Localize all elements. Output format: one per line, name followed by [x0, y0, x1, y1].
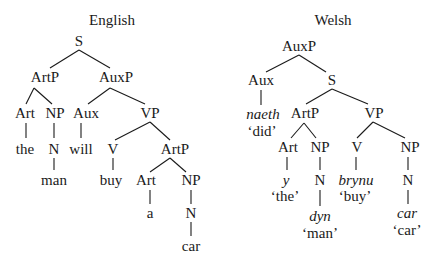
- node-np-object: NP: [400, 140, 419, 155]
- node-art-object: Art: [136, 173, 156, 188]
- word-man: man: [41, 173, 67, 188]
- node-aux: Aux: [248, 73, 274, 88]
- node-n-object: N: [403, 173, 414, 188]
- gloss-car: ‘car’: [393, 223, 422, 238]
- node-aux: Aux: [73, 106, 99, 121]
- node-auxp: AuxP: [282, 39, 316, 54]
- node-artp: ArtP: [31, 70, 59, 85]
- node-np: NP: [45, 106, 64, 121]
- node-np-object: NP: [181, 173, 200, 188]
- word-a: a: [147, 206, 154, 221]
- node-s: S: [75, 34, 83, 49]
- word-brynu: brynu: [339, 173, 374, 188]
- node-n: N: [315, 173, 326, 188]
- word-will: will: [69, 142, 92, 157]
- gloss-the: ‘the’: [271, 189, 299, 204]
- node-auxp: AuxP: [99, 70, 133, 85]
- english-title: English: [89, 13, 135, 28]
- word-the: the: [16, 142, 34, 157]
- word-y: y: [283, 173, 290, 188]
- word-buy: buy: [100, 173, 123, 188]
- word-car: car: [182, 239, 200, 254]
- gloss-buy: ‘buy’: [339, 189, 372, 204]
- node-art: Art: [15, 106, 35, 121]
- word-car: car: [397, 206, 417, 221]
- node-art: Art: [278, 140, 298, 155]
- welsh-title: Welsh: [314, 13, 351, 28]
- node-n-object: N: [186, 206, 197, 221]
- node-v: V: [108, 142, 119, 157]
- gloss-man: ‘man’: [302, 226, 338, 241]
- gloss-did: ‘did’: [247, 124, 276, 139]
- node-vp: VP: [364, 106, 383, 121]
- node-vp: VP: [140, 106, 159, 121]
- node-artp: ArtP: [291, 106, 319, 121]
- node-s: S: [328, 73, 336, 88]
- node-n: N: [49, 142, 60, 157]
- word-dyn: dyn: [309, 209, 331, 224]
- tree-edges: [0, 0, 432, 264]
- node-np: NP: [310, 140, 329, 155]
- node-v: V: [352, 140, 363, 155]
- node-artp-object: ArtP: [161, 142, 189, 157]
- word-naeth: naeth: [246, 107, 279, 122]
